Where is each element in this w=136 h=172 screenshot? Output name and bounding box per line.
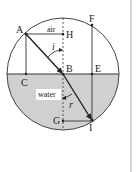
point-H-dot	[62, 33, 65, 36]
label-A: A	[16, 24, 24, 35]
point-F-dot	[91, 24, 94, 27]
label-I: I	[89, 122, 92, 133]
point-G-dot	[62, 120, 64, 122]
label-B: B	[66, 63, 73, 74]
refraction-diagram: A H F B E C G I air water i r	[0, 0, 136, 172]
label-angle-i: i	[52, 41, 55, 52]
label-air: air	[47, 25, 56, 34]
label-H: H	[66, 29, 73, 40]
label-E: E	[95, 63, 101, 74]
angle-i-arc	[48, 50, 62, 57]
incident-ray	[26, 34, 62, 73]
point-B-dot	[62, 73, 65, 76]
point-A-dot	[25, 33, 28, 36]
point-E-dot	[91, 73, 93, 75]
label-angle-r: r	[69, 99, 73, 110]
label-F: F	[89, 13, 95, 24]
point-C-dot	[25, 73, 27, 75]
label-water: water	[38, 90, 56, 99]
label-G: G	[53, 115, 60, 126]
label-C: C	[21, 77, 28, 88]
